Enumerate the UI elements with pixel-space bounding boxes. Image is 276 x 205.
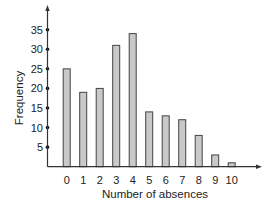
x-tick-label: 10 [226,174,238,186]
x-tick-label: 0 [64,174,70,186]
bar-7 [179,120,186,167]
x-tick-label: 6 [163,174,169,186]
y-axis-title: Frequency [13,71,25,126]
y-tick-label: 5 [37,141,43,153]
x-tick-label: 8 [196,174,202,186]
y-tick-label: 30 [31,43,43,55]
x-tick-label: 7 [179,174,185,186]
y-tick-label: 20 [31,82,43,94]
y-axis-arrow-icon [45,5,49,11]
bar-2 [96,88,103,166]
bar-3 [113,45,120,166]
y-tick-label: 15 [31,102,43,114]
x-tick-label: 2 [97,174,103,186]
bar-6 [162,116,169,167]
x-tick-label: 3 [113,174,119,186]
x-axis-title: Number of absences [102,188,208,200]
bar-8 [195,135,202,166]
x-axis-arrow-icon [256,165,262,169]
bar-4 [129,34,136,167]
bar-0 [63,69,70,167]
y-axis-ticks: 5101520253035 [31,24,50,153]
x-tick-label: 1 [80,174,86,186]
bar-chart: 5101520253035 012345678910 Number of abs… [0,0,276,205]
bar-5 [146,112,153,167]
x-tick-label: 5 [146,174,152,186]
y-tick-label: 35 [31,24,43,36]
x-tick-label: 4 [130,174,136,186]
x-tick-label: 9 [212,174,218,186]
y-tick-label: 10 [31,122,43,134]
bar-9 [212,155,219,167]
bar-1 [80,92,87,166]
x-axis-ticks: 012345678910 [64,174,238,186]
bars-group [63,34,235,167]
y-tick-label: 25 [31,63,43,75]
